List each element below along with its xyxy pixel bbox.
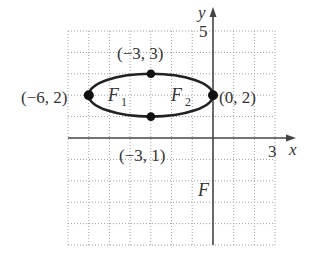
label-right-vertex: (0, 2) bbox=[219, 88, 256, 107]
focus-1-subscript: 1 bbox=[121, 95, 127, 109]
label-top-covertex: (−3, 3) bbox=[117, 44, 163, 63]
focus-1-label: F bbox=[107, 85, 120, 105]
point-left-vertex bbox=[84, 90, 94, 100]
point-bottom-covertex bbox=[147, 112, 156, 121]
y-axis-label: y bbox=[196, 3, 206, 22]
y-axis-arrow-icon bbox=[210, 7, 217, 17]
label-bottom-covertex: (−3, 1) bbox=[119, 146, 165, 165]
x-axis-label: x bbox=[288, 140, 297, 159]
point-top-covertex bbox=[147, 70, 156, 79]
ellipse-diagram: y 5 3 x (−3, 3) (−3, 1) (−6, 2) (0, 2) F… bbox=[0, 0, 312, 258]
y-tick-label: 5 bbox=[199, 22, 208, 41]
extra-f-label: F bbox=[197, 180, 210, 200]
axes bbox=[68, 7, 296, 245]
x-tick-label: 3 bbox=[268, 142, 277, 161]
point-right-vertex bbox=[208, 90, 218, 100]
label-left-vertex: (−6, 2) bbox=[21, 88, 67, 107]
focus-2-label: F bbox=[170, 85, 183, 105]
focus-2-subscript: 2 bbox=[185, 95, 191, 109]
